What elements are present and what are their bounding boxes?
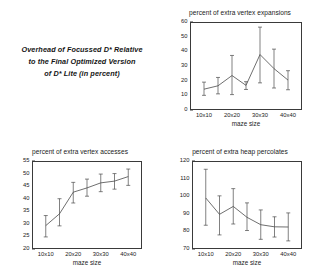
x-axis-tick-label: 30x30	[253, 252, 269, 258]
y-axis-tick-label: 100	[180, 193, 190, 199]
chart-vertex-accesses: percent of extra vertex accesses20253035…	[0, 139, 160, 277]
plot-area: 202530354045505510x1020x2030x3040x40maze…	[32, 161, 142, 249]
y-axis-tick-label: 40	[23, 196, 29, 202]
x-axis-tick-label: 20x20	[224, 113, 240, 119]
data-series	[32, 161, 142, 249]
y-axis-tick-label: 40	[181, 48, 187, 54]
x-axis-tick-label: 10x10	[198, 252, 214, 258]
y-axis-tick-label: 110	[180, 176, 189, 182]
figure-root: Overhead of Focussed D* Relative to the …	[0, 0, 320, 277]
error-bar	[218, 196, 222, 235]
x-axis-tick-label: 20x20	[225, 252, 241, 258]
y-axis-tick-label: 10	[181, 92, 187, 98]
y-axis-tick-label: 45	[23, 183, 29, 189]
error-bar	[204, 169, 208, 225]
y-axis-tick-label: 90	[183, 211, 189, 217]
chart-heap-percolates: percent of extra heap percolates70809010…	[160, 139, 320, 277]
x-axis-tick-label: 40x40	[280, 113, 296, 119]
error-bar	[286, 71, 290, 90]
y-axis-tick-label: 30	[23, 221, 29, 227]
plot-area: 010203040506010x1020x2030x3040x40maze si…	[190, 22, 302, 110]
error-bar	[230, 55, 234, 94]
y-axis-tick-label: 35	[23, 208, 29, 214]
y-axis-tick-label: 55	[23, 158, 29, 164]
x-axis-tick-label: 30x30	[93, 252, 109, 258]
y-axis-tick-label: 20	[181, 78, 187, 84]
x-axis-tick-label: 40x40	[280, 252, 296, 258]
x-axis-title: maze size	[190, 120, 302, 127]
y-axis-tick-label: 80	[183, 228, 189, 234]
x-axis-title: maze size	[32, 259, 142, 266]
chart-title: percent of extra vertex accesses	[0, 148, 160, 155]
y-axis-tick-label: 25	[23, 234, 29, 240]
y-axis-tick-label: 120	[180, 158, 190, 164]
caption-line-2: to the Final Optimized Version	[29, 57, 136, 66]
plot-area: 70809010011012010x1020x2030x3040x40maze …	[192, 161, 302, 249]
y-axis-tick-label: 50	[181, 34, 187, 40]
y-axis-tick-label: 30	[181, 63, 187, 69]
data-series	[190, 22, 302, 110]
chart-title: percent of extra heap percolates	[160, 148, 320, 155]
y-axis-tick-label: 0	[184, 107, 187, 113]
chart-vertex-expansions: percent of extra vertex expansions010203…	[160, 0, 320, 139]
x-axis-tick-label: 40x40	[120, 252, 136, 258]
chart-title: percent of extra vertex expansions	[160, 9, 320, 16]
error-bar	[44, 216, 48, 237]
caption-line-3: of D* Lite (in percent)	[44, 69, 119, 78]
x-axis-tick-label: 30x30	[252, 113, 268, 119]
y-axis-tick-label: 20	[23, 246, 29, 252]
x-axis-tick-label: 10x10	[38, 252, 54, 258]
caption-line-1: Overhead of Focussed D* Relative	[21, 45, 142, 54]
caption-text-block: Overhead of Focussed D* Relative to the …	[12, 44, 152, 79]
y-axis-tick-label: 60	[181, 19, 187, 25]
figure-caption: Overhead of Focussed D* Relative to the …	[0, 0, 160, 139]
x-axis-tick-label: 20x20	[65, 252, 81, 258]
x-axis-title: maze size	[192, 259, 302, 266]
y-axis-tick-label: 70	[183, 246, 189, 252]
y-axis-tick-label: 50	[23, 171, 29, 177]
x-axis-tick-label: 10x10	[196, 113, 212, 119]
data-series	[192, 161, 302, 249]
